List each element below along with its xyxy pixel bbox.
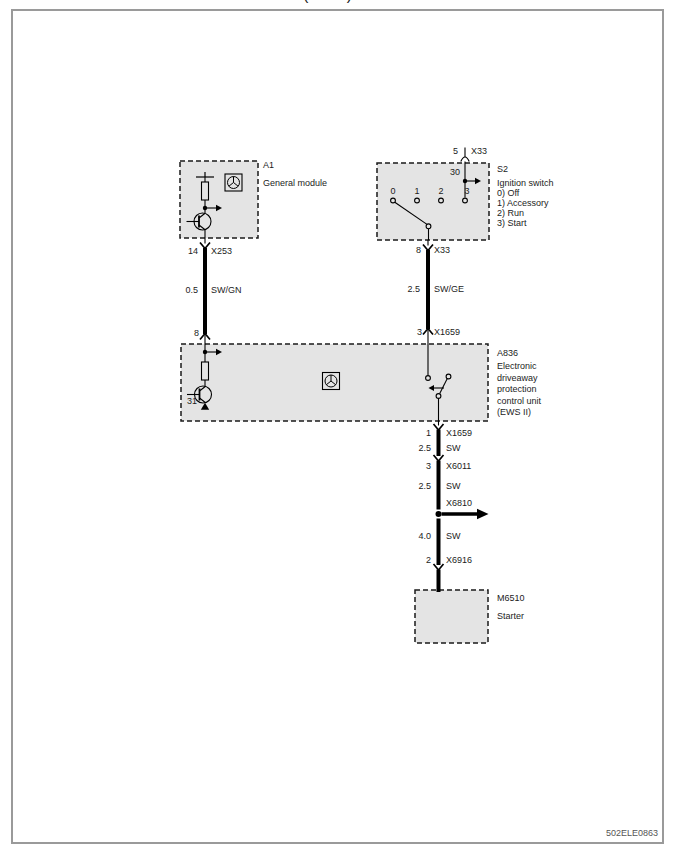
- x6011-pin-label: 3: [403, 461, 431, 471]
- s2-pivot: [426, 224, 431, 229]
- terminal-31-label: 31: [177, 396, 197, 406]
- s2-contact-3-label: 3: [462, 186, 472, 196]
- s2-contact-1-label: 1: [412, 186, 422, 196]
- a836-resistor-icon: [202, 362, 209, 380]
- connector-x6810-label: X6810: [446, 498, 472, 508]
- x6916-pin-label: 2: [403, 555, 431, 565]
- a836-name-label: Electronic driveaway protection control …: [497, 361, 555, 419]
- s2-position-off: 0) Off: [497, 188, 549, 198]
- a836-pin-left-label: 8: [179, 328, 199, 338]
- s2-contact-1: [415, 198, 420, 203]
- wire-seg2-gauge-label: 2.5: [403, 481, 431, 491]
- a836-ref-label: A836: [497, 348, 518, 358]
- s2-top-connector-icon: [461, 157, 469, 162]
- connector-x6011-label: X6011: [446, 461, 471, 471]
- wire-seg2-color-label: SW: [446, 481, 461, 491]
- s2-name-label: Ignition switch: [497, 178, 554, 188]
- s2-contact-2: [439, 198, 444, 203]
- wire-a1-gauge-label: 0.5: [178, 285, 198, 295]
- s2-pin-bottom-label: 8: [401, 245, 421, 255]
- a836-pivot: [436, 394, 441, 399]
- connector-x6916-label: X6916: [446, 555, 472, 565]
- a836-contact-top: [446, 374, 451, 379]
- x6810-junction-dot: [436, 511, 442, 517]
- a836-contact-in: [426, 376, 431, 381]
- m6510-name-label: Starter: [497, 611, 524, 621]
- wire-s2-gauge-label: 2.5: [400, 284, 420, 294]
- wire-a1-color-label: SW/GN: [211, 285, 242, 295]
- s2-contact-2-label: 2: [436, 186, 446, 196]
- s2-position-start: 3) Start: [497, 218, 549, 228]
- s2-contact-0-label: 0: [388, 186, 398, 196]
- m6510-ref-label: M6510: [497, 593, 525, 603]
- s2-connector-top-label: X33: [471, 146, 487, 156]
- s2-contact-0: [391, 198, 396, 203]
- wire-s2-color-label: SW/GE: [434, 284, 464, 294]
- diagram-canvas: [0, 0, 677, 858]
- wire-seg3-gauge-label: 4.0: [403, 531, 431, 541]
- connector-x33-label: X33: [434, 245, 450, 255]
- a836-pin-right-label: 3: [402, 327, 422, 337]
- x6810-offpage-arrow-icon: [477, 509, 489, 519]
- m6510-box: [415, 590, 488, 643]
- a1-ref-label: A1: [263, 160, 274, 170]
- wire-seg3-color-label: SW: [446, 531, 461, 541]
- document-id: 502ELE0863: [558, 828, 658, 838]
- a836-pin-out-label: 1: [403, 428, 431, 438]
- s2-position-accessory: 1) Accessory: [497, 198, 549, 208]
- connector-x1659-bottom-label: X1659: [446, 428, 472, 438]
- s2-ref-label: S2: [497, 164, 508, 174]
- a1-resistor-icon: [202, 182, 209, 200]
- s2-terminal-30-label: 30: [444, 167, 460, 177]
- a836-box: [181, 344, 488, 421]
- a1-pin-label: 14: [178, 246, 198, 256]
- a1-box: [180, 161, 258, 238]
- connector-x253-label: X253: [211, 246, 232, 256]
- wire-s2-a836: [423, 240, 433, 344]
- wire-seg1-color-label: SW: [446, 443, 461, 453]
- wiring-diagram-page: ( ): [0, 0, 677, 858]
- a1-name-label: General module: [263, 178, 327, 188]
- s2-position-run: 2) Run: [497, 208, 549, 218]
- s2-contact-3: [463, 198, 468, 203]
- s2-position-legend: 0) Off 1) Accessory 2) Run 3) Start: [497, 188, 549, 228]
- s2-pin-top-label: 5: [442, 146, 458, 156]
- wire-seg1-gauge-label: 2.5: [403, 443, 431, 453]
- wire-a1-a836: [200, 238, 210, 344]
- connector-x1659-top-label: X1659: [434, 327, 460, 337]
